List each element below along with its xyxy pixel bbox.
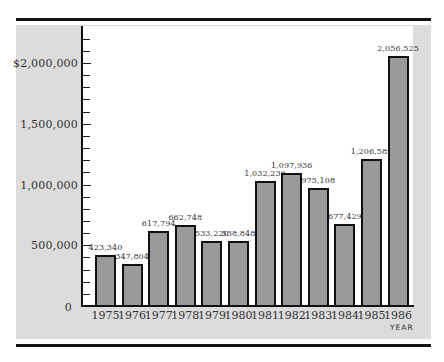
y-tick (83, 257, 90, 258)
y-tick-label: 500,000 (31, 239, 78, 252)
y-tick (83, 209, 90, 210)
y-tick-label: $2,000,000 (13, 57, 78, 70)
bar-1986 (388, 56, 409, 306)
y-tick (83, 87, 90, 88)
y-tick (83, 51, 90, 52)
y-tick (83, 39, 90, 40)
y-axis-line (81, 26, 83, 307)
x-tick-label: 1980 (225, 309, 253, 322)
value-label: 538,848 (222, 229, 256, 238)
y-tick (83, 221, 90, 222)
bar-1975 (95, 255, 116, 306)
bar-1985 (361, 159, 382, 306)
value-label: 347,804 (115, 252, 149, 261)
x-tick-label: 1975 (92, 309, 120, 322)
bar-1982 (281, 173, 302, 306)
y-tick-label: 1,500,000 (20, 117, 78, 130)
bar-1980 (228, 241, 249, 306)
x-axis-line (81, 305, 414, 307)
y-tick (83, 172, 90, 173)
y-tick (83, 233, 90, 234)
bottom-rule (16, 344, 431, 347)
value-label: 1,032,236 (244, 169, 286, 178)
x-tick-label: 1986 (384, 309, 412, 322)
value-label: 677,429 (328, 212, 362, 221)
y-tick (83, 148, 90, 149)
bar-1979 (201, 241, 222, 306)
y-tick (83, 124, 91, 125)
x-tick-label: 1985 (358, 309, 386, 322)
bar-1983 (308, 188, 329, 306)
y-tick (83, 160, 90, 161)
y-tick (83, 197, 90, 198)
x-tick-label: 1982 (278, 309, 306, 322)
x-tick-label: 1977 (145, 309, 173, 322)
bar-1977 (148, 231, 169, 306)
y-tick-label: 1,000,000 (20, 178, 78, 191)
x-tick-label: 1983 (304, 309, 332, 322)
bar-1976 (122, 264, 143, 306)
y-tick (83, 294, 90, 295)
x-axis-title: YEAR (390, 323, 414, 332)
value-label: 2,056,525 (377, 44, 419, 53)
y-tick (83, 185, 91, 186)
y-tick (83, 282, 90, 283)
bar-1978 (175, 225, 196, 306)
top-rule (16, 18, 431, 21)
bar-1981 (255, 181, 276, 306)
y-tick (83, 270, 90, 271)
y-tick (83, 136, 90, 137)
y-tick (83, 63, 91, 64)
y-tick (83, 99, 90, 100)
y-tick-label: 0 (65, 301, 72, 314)
value-label: 423,340 (89, 243, 123, 252)
x-tick-label: 1981 (251, 309, 279, 322)
x-tick-label: 1978 (171, 309, 199, 322)
y-tick (83, 75, 90, 76)
value-label: 975,108 (301, 176, 335, 185)
y-tick (83, 112, 90, 113)
x-tick-label: 1979 (198, 309, 226, 322)
value-label: 1,206,589 (351, 147, 393, 156)
value-label: 1,097,936 (271, 161, 313, 170)
x-tick-label: 1976 (118, 309, 146, 322)
bar-1984 (334, 224, 355, 306)
value-label: 662,748 (168, 213, 202, 222)
x-tick-label: 1984 (331, 309, 359, 322)
